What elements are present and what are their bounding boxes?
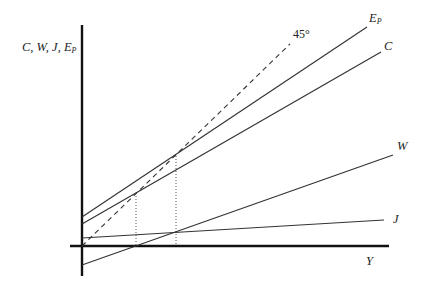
w-label: W — [397, 139, 409, 153]
economics-diagram: C, W, J, EP Y 45° EP C W J — [0, 0, 430, 291]
w-line — [82, 155, 393, 265]
c-label: C — [384, 39, 393, 53]
diagram-canvas: C, W, J, EP Y 45° EP C W J — [0, 0, 430, 291]
j-label: J — [393, 212, 400, 226]
c-line — [82, 52, 381, 224]
ep-line — [82, 27, 367, 217]
45-degree-line — [82, 44, 290, 246]
y-axis-label: C, W, J, EP — [22, 40, 77, 55]
ep-label: EP — [368, 11, 382, 26]
45-degree-label: 45° — [293, 27, 310, 41]
j-line — [82, 220, 384, 238]
x-axis-label: Y — [366, 254, 375, 268]
